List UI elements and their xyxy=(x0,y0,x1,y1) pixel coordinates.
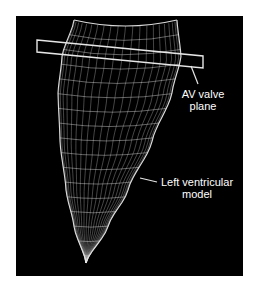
av-valve-label-line2: plane xyxy=(177,100,229,112)
lv-model-leader-line xyxy=(140,178,157,182)
av-valve-label: AV valve plane xyxy=(177,88,229,112)
mesh-circumferential-ring xyxy=(74,20,177,26)
mesh-longitudinal-line xyxy=(86,26,126,263)
lv-model-label-line2: model xyxy=(158,188,236,200)
av-valve-leader-line xyxy=(191,66,198,84)
av-valve-label-line1: AV valve xyxy=(177,88,229,100)
lv-model-label-line1: Left ventricular xyxy=(158,176,236,188)
lv-diagram xyxy=(0,0,258,290)
lv-model-label: Left ventricular model xyxy=(158,176,236,200)
